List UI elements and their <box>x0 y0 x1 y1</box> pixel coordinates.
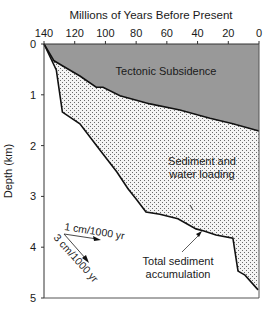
x-axis-title: Millions of Years Before Present <box>69 9 233 21</box>
y-tick-label: 5 <box>30 292 36 304</box>
x-tick-label: 40 <box>191 27 203 39</box>
y-axis-title: Depth (km) <box>2 144 14 198</box>
y-axis-ticks: 012345 <box>30 38 44 304</box>
total-accumulation-label-line1: Total sediment <box>143 255 214 267</box>
x-tick-label: 80 <box>130 27 142 39</box>
x-tick-label: 100 <box>96 27 114 39</box>
x-tick-label: 120 <box>66 27 84 39</box>
total-accumulation-label-line2: accumulation <box>146 268 211 280</box>
y-tick-label: 0 <box>30 38 36 50</box>
sediment-loading-label-line2: water loading <box>168 168 234 180</box>
y-tick-label: 3 <box>30 190 36 202</box>
tectonic-subsidence-label: Tectonic Subsidence <box>116 65 217 77</box>
total-accumulation-pointer-arrow <box>182 231 202 252</box>
sediment-loading-label-line1: Sediment and <box>168 155 236 167</box>
y-tick-label: 4 <box>30 241 36 253</box>
x-tick-label: 60 <box>161 27 173 39</box>
x-axis-ticks: 140120100806040200 <box>35 27 262 44</box>
y-tick-label: 2 <box>30 140 36 152</box>
y-tick-label: 1 <box>30 89 36 101</box>
subsidence-chart: 140120100806040200 012345 Millions of Ye… <box>0 0 274 309</box>
x-tick-label: 0 <box>256 27 262 39</box>
x-tick-label: 20 <box>222 27 234 39</box>
x-tick-label: 140 <box>35 27 53 39</box>
